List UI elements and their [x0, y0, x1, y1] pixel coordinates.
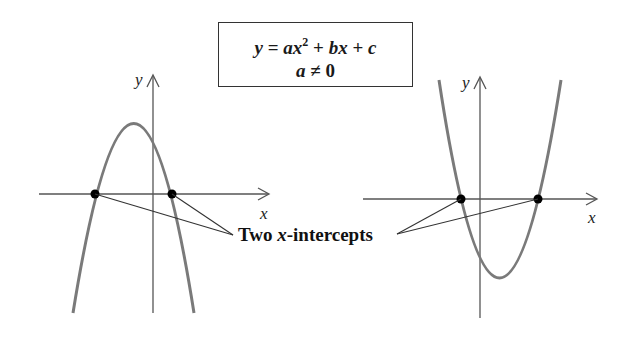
eq-plus-2: +	[348, 37, 368, 58]
nonzero-condition: a ≠ 0	[219, 60, 412, 82]
right-x-axis-label: x	[588, 208, 596, 228]
cond-neq: ≠	[306, 60, 326, 81]
label-suffix: -intercepts	[287, 224, 373, 245]
eq-a: a	[283, 37, 293, 58]
equation-box: y = ax2 + bx + c a ≠ 0	[218, 22, 413, 87]
eq-c: c	[368, 37, 376, 58]
eq-x-2: x	[338, 37, 348, 58]
left-graph	[39, 75, 269, 313]
eq-plus-1: +	[308, 37, 328, 58]
leader-right-1	[397, 199, 461, 234]
two-x-intercepts-label: Two x-intercepts	[238, 224, 373, 246]
eq-x: x	[293, 37, 303, 58]
quadratic-equation: y = ax2 + bx + c	[219, 30, 412, 60]
leader-right-2	[397, 199, 538, 234]
leader-left-2	[172, 194, 233, 235]
cond-a: a	[296, 60, 306, 81]
right-graph	[363, 77, 597, 318]
right-y-axis-label: y	[462, 73, 470, 93]
right-parabola-curve	[439, 80, 561, 278]
eq-b: b	[329, 37, 339, 58]
eq-y: y	[255, 37, 263, 58]
label-var: x	[277, 224, 287, 245]
left-x-axis-label: x	[260, 204, 268, 224]
eq-equals: =	[263, 37, 283, 58]
left-y-axis-label: y	[135, 70, 143, 90]
leader-left-1	[95, 194, 233, 235]
cond-zero: 0	[325, 60, 335, 81]
label-prefix: Two	[238, 224, 277, 245]
